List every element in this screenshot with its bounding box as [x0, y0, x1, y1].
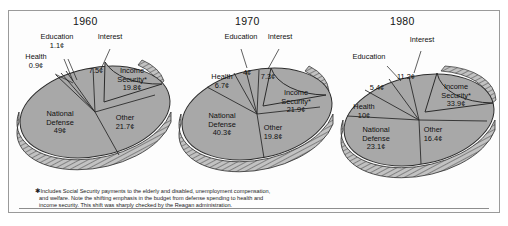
label-interest-1960-name: Interest	[98, 32, 123, 41]
label-national-defense-1970-value: 40.3¢	[213, 128, 232, 137]
label-income-security-1970-value: 21.9¢	[287, 105, 306, 114]
label-income-security-1960: Income Security* 19.8¢	[109, 67, 155, 93]
label-income-security-1980: Income Security* 33.9¢	[433, 83, 479, 109]
label-other-1970-value: 19.8¢	[264, 132, 283, 141]
label-other-1960: Other 21.7¢	[107, 114, 143, 131]
label-income-security-1970: Income Security* 21.9¢	[273, 89, 319, 115]
value-interest-1980: 11.2¢	[391, 73, 421, 82]
label-other-1980-value: 16.4¢	[424, 134, 443, 143]
label-other-1970: Other 19.8¢	[255, 124, 291, 141]
label-education-1980-name: Education	[353, 52, 386, 61]
label-interest-1970: Interest	[259, 33, 301, 42]
label-income-security-1980-value: 33.9¢	[447, 99, 466, 108]
label-education-1960-value: 1.1¢	[50, 41, 64, 50]
label-other-1980: Other 16.4¢	[415, 126, 451, 143]
year-label-1960: 1960	[73, 15, 98, 27]
label-other-1960-value: 21.7¢	[116, 122, 135, 131]
label-national-defense-1970: National Defense 40.3¢	[199, 112, 245, 138]
figure-frame: 1960 1970 1980	[8, 10, 500, 213]
label-education-1980: Education	[343, 53, 395, 62]
footnote-rule	[19, 208, 489, 209]
label-national-defense-1980: National Defense 23.1¢	[353, 126, 399, 152]
value-interest-1970: 7.3¢	[254, 73, 282, 82]
year-label-1970: 1970	[235, 15, 260, 27]
label-interest-1980: Interest	[401, 36, 443, 45]
label-education-1970-name: Education	[225, 32, 258, 41]
label-health-1970: Health 6.7¢	[205, 73, 239, 90]
label-national-defense-1960-value: 49¢	[54, 126, 66, 135]
label-health-1960-value: 0.9¢	[29, 61, 43, 70]
label-interest-1980-name: Interest	[410, 35, 435, 44]
label-national-defense-1980-value: 23.1¢	[367, 142, 386, 151]
label-health-1980-value: 10¢	[358, 111, 370, 120]
label-income-security-1960-value: 19.8¢	[123, 83, 142, 92]
footnote: ✱Includes Social Security payments to th…	[35, 187, 365, 210]
footnote-line-1: ✱Includes Social Security payments to th…	[35, 187, 365, 195]
footnote-line-2: and welfare. Note the shifting emphasis …	[35, 195, 365, 202]
label-interest-1960: Interest	[89, 33, 131, 42]
label-health-1970-value: 6.7¢	[215, 81, 229, 90]
footnote-line-1-text: Includes Social Security payments to the…	[40, 188, 270, 194]
label-national-defense-1960: National Defense 49¢	[37, 110, 83, 136]
year-label-1980: 1980	[390, 15, 415, 27]
value-education-1980: 5.4¢	[364, 84, 390, 93]
label-health-1980: Health 10¢	[347, 103, 381, 120]
label-health-1960: Health 0.9¢	[14, 53, 58, 70]
label-interest-1970-name: Interest	[268, 32, 293, 41]
label-education-1960: Education 1.1¢	[31, 33, 83, 50]
value-interest-1960: 7.5¢	[81, 67, 111, 76]
